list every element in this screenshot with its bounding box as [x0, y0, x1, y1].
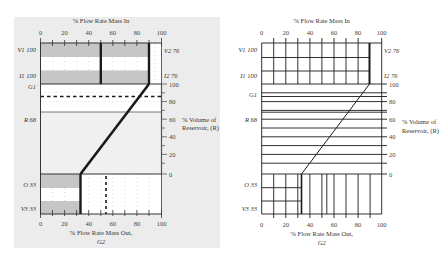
left-row-labels: V1 100 I1 100 G1 R 68 O 33 V3 33 [17, 46, 36, 213]
svg-text:100: 100 [377, 29, 387, 36]
left-diagram: % Flow Rate Mass In 0 20 40 60 80 100 0 … [17, 17, 219, 245]
right-top-tick-labels: 0 20 40 60 80 100 [260, 29, 387, 36]
svg-text:80: 80 [355, 29, 362, 36]
svg-text:40: 40 [389, 133, 396, 140]
right-axis-ticks [162, 84, 168, 174]
o-band [41, 174, 81, 188]
svg-text:V2 76: V2 76 [164, 47, 180, 54]
svg-text:40: 40 [307, 221, 314, 228]
svg-text:100: 100 [389, 81, 399, 88]
left-bottom-axis-subtitle: G2 [97, 238, 106, 245]
right-top-axis-title: % Flow Rate Mass In [294, 17, 351, 24]
svg-text:40: 40 [169, 133, 176, 140]
right-right-row-labels: V2 76 I2 76 [383, 47, 400, 80]
svg-text:60: 60 [110, 220, 117, 227]
svg-text:I1 100: I1 100 [18, 72, 37, 79]
right-right-axis-subtitle: Reservoir, (R) [402, 127, 439, 135]
svg-text:80: 80 [389, 98, 396, 105]
svg-text:60: 60 [169, 116, 176, 123]
svg-text:60: 60 [389, 116, 396, 123]
right-volume-grid [262, 84, 387, 214]
right-bottom-grid [262, 174, 382, 218]
svg-text:100: 100 [169, 81, 179, 88]
left-right-axis-title: % Volume of [182, 116, 217, 123]
mid-band-top [41, 57, 150, 71]
svg-text:20: 20 [169, 151, 176, 158]
svg-text:100: 100 [377, 221, 387, 228]
svg-text:60: 60 [331, 221, 338, 228]
left-right-row-labels: V2 76 I2 76 [163, 47, 180, 80]
svg-text:0: 0 [389, 171, 392, 178]
svg-text:20: 20 [283, 221, 290, 228]
svg-text:V1 100: V1 100 [238, 46, 257, 53]
svg-text:60: 60 [331, 29, 338, 36]
right-bottom-axis-subtitle: G2 [318, 239, 327, 246]
svg-text:0: 0 [39, 220, 42, 227]
flow-diagram-svg: % Flow Rate Mass In 0 20 40 60 80 100 0 … [0, 0, 447, 259]
svg-text:I2 76: I2 76 [163, 72, 178, 79]
svg-text:0: 0 [39, 29, 42, 36]
svg-text:40: 40 [85, 29, 92, 36]
svg-text:0: 0 [169, 171, 172, 178]
svg-text:O 33: O 33 [23, 181, 37, 188]
svg-text:100: 100 [157, 220, 167, 227]
svg-text:O 33: O 33 [244, 181, 258, 188]
svg-text:80: 80 [134, 29, 141, 36]
right-bottom-tick-labels: 0 20 40 60 80 100 [260, 221, 387, 228]
right-right-axis-title: % Volume of [402, 118, 437, 125]
left-right-axis-subtitle: Reservoir, (R) [182, 124, 219, 132]
left-bottom-axis-title: % Flow Rate Mass Out, [70, 229, 133, 236]
g1-region [41, 84, 162, 112]
svg-text:G1: G1 [28, 83, 36, 90]
right-row-labels: V1 100 I1 100 G1 R 68 O 33 V3 33 [238, 46, 257, 213]
svg-text:80: 80 [355, 221, 362, 228]
right-operating-line [302, 84, 370, 174]
right-diagram-text: % Flow Rate Mass In 0 20 40 60 80 100 0 … [238, 17, 439, 246]
left-right-tick-labels: 100 80 60 40 20 0 [169, 81, 179, 178]
svg-text:20: 20 [283, 29, 290, 36]
svg-text:0: 0 [260, 29, 263, 36]
svg-text:40: 40 [85, 220, 92, 227]
svg-text:I2 76: I2 76 [383, 72, 398, 79]
svg-text:100: 100 [157, 29, 167, 36]
svg-text:R 68: R 68 [23, 116, 37, 123]
svg-text:20: 20 [61, 29, 68, 36]
svg-text:V3 33: V3 33 [242, 205, 258, 212]
svg-text:G1: G1 [249, 91, 257, 98]
reservoir-region [41, 112, 162, 174]
left-bottom-tick-labels: 0 20 40 60 80 100 [39, 220, 167, 227]
right-right-tick-labels: 100 80 60 40 20 0 [389, 81, 399, 178]
i1-band [41, 71, 150, 85]
v3-band [41, 201, 81, 214]
v1-band [41, 43, 150, 57]
svg-text:40: 40 [307, 29, 314, 36]
figure-stage: % Flow Rate Mass In 0 20 40 60 80 100 0 … [0, 0, 447, 259]
left-top-axis-title: % Flow Rate Mass In [73, 17, 130, 24]
svg-text:I1 100: I1 100 [239, 72, 258, 79]
right-bottom-axis-title: % Flow Rate Mass Out, [291, 230, 354, 237]
left-top-tick-labels: 0 20 40 60 80 100 [39, 29, 167, 36]
svg-text:60: 60 [110, 29, 117, 36]
svg-text:20: 20 [61, 220, 68, 227]
svg-text:20: 20 [389, 151, 396, 158]
svg-text:0: 0 [260, 221, 263, 228]
svg-text:V2 76: V2 76 [384, 47, 400, 54]
svg-text:80: 80 [134, 220, 141, 227]
svg-text:V3 33: V3 33 [21, 205, 37, 212]
right-diagram [262, 38, 387, 218]
svg-text:V1 100: V1 100 [17, 46, 36, 53]
svg-text:R 68: R 68 [244, 116, 258, 123]
svg-text:80: 80 [169, 98, 176, 105]
